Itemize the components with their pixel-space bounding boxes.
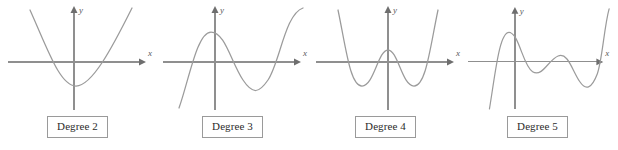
degree-label-4: Degree 4	[355, 116, 416, 138]
label-wrap-degree-5: Degree 5	[460, 116, 615, 138]
y-axis-label-2: y	[78, 5, 83, 15]
y-axis-label-5: y	[519, 6, 524, 16]
curve-degree-3	[179, 8, 303, 108]
plot-degree-4: x y	[308, 0, 463, 115]
curve-degree-5	[489, 9, 609, 109]
y-axis-label-4: y	[392, 5, 397, 15]
degree-label-5: Degree 5	[507, 116, 568, 138]
panel-degree-4: x y Degree 4	[308, 0, 463, 150]
x-axis-label-5: x	[604, 48, 609, 58]
y-axis-arrow-icon-3	[212, 6, 219, 13]
y-axis-label-3: y	[219, 5, 224, 15]
x-axis-arrow-icon-3	[294, 59, 301, 66]
y-axis-arrow-icon-2	[71, 6, 78, 13]
x-axis-label-3: x	[302, 48, 307, 58]
label-wrap-degree-2: Degree 2	[0, 116, 155, 138]
polynomial-degree-figure: x y Degree 2 x y Degree 3 x	[0, 0, 618, 150]
x-axis-label-2: x	[147, 48, 152, 58]
label-wrap-degree-4: Degree 4	[308, 116, 463, 138]
degree-label-3: Degree 3	[202, 116, 263, 138]
panel-degree-3: x y Degree 3	[155, 0, 310, 150]
plot-degree-3: x y	[155, 0, 310, 115]
panel-degree-5: x y Degree 5	[460, 0, 615, 150]
y-axis-arrow-icon-5	[512, 7, 519, 14]
label-wrap-degree-3: Degree 3	[155, 116, 310, 138]
plot-degree-2: x y	[0, 0, 155, 115]
degree-label-2: Degree 2	[47, 116, 108, 138]
plot-degree-5: x y	[460, 0, 615, 115]
x-axis-arrow-icon-4	[447, 59, 454, 66]
y-axis-arrow-icon-4	[385, 6, 392, 13]
curve-degree-2	[30, 8, 132, 86]
x-axis-arrow-icon-2	[139, 59, 146, 66]
panel-degree-2: x y Degree 2	[0, 0, 155, 150]
